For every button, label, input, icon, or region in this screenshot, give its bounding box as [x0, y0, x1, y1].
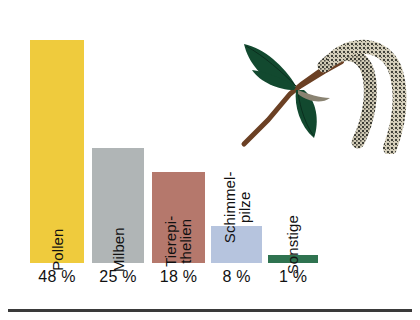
value-label-tierepithelien: 18 %	[152, 268, 205, 286]
value-label-pollen: 48 %	[30, 268, 84, 286]
value-label-schimmelpilze: 8 %	[211, 268, 262, 286]
bottom-divider	[8, 309, 412, 312]
bar-group-sonstige: Sonstige	[268, 255, 318, 263]
value-label-milben: 25 %	[92, 268, 144, 286]
catkin-inner	[324, 55, 370, 142]
bar-label-text-sonstige: Sonstige	[285, 215, 300, 274]
bar-schimmelpilze	[211, 226, 262, 263]
bar-group-tierepithelien: Tierepi- thelien	[152, 172, 205, 263]
bar-group-milben: Milben	[92, 148, 144, 263]
value-label-sonstige: 1 %	[268, 268, 318, 286]
bar-tierepithelien	[152, 172, 205, 263]
bar-sonstige	[268, 255, 318, 263]
chart-figure: Pollen Milben Tierepi- thelien Schimmel-…	[0, 0, 420, 320]
bar-pollen	[30, 40, 84, 263]
bar-group-schimmelpilze: Schimmel- pilze	[211, 226, 262, 263]
bar-milben	[92, 148, 144, 263]
birch-branch-illustration	[238, 14, 418, 154]
bar-label-sonstige: Sonstige	[268, 162, 318, 252]
bar-group-pollen: Pollen	[30, 40, 84, 263]
